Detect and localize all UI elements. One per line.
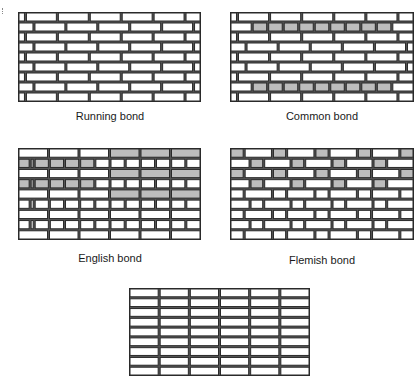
running-bond-diagram [18, 12, 201, 102]
english-bond-svg [18, 148, 201, 240]
flemish-bond-caption: Flemish bond [222, 254, 420, 266]
flemish-bond-diagram [230, 148, 414, 240]
common-bond-caption: Common bond [222, 110, 420, 122]
common-bond-svg [230, 12, 414, 102]
english-bond-diagram [18, 148, 201, 240]
margin-mark [2, 8, 7, 14]
english-bond-caption: English bond [10, 252, 210, 264]
flemish-bond-svg [230, 148, 414, 240]
running-bond-svg [18, 12, 201, 102]
running-bond-caption: Running bond [10, 110, 210, 122]
stack-bond-svg [129, 288, 310, 376]
stack-bond-diagram [129, 288, 310, 376]
common-bond-diagram [230, 12, 414, 102]
